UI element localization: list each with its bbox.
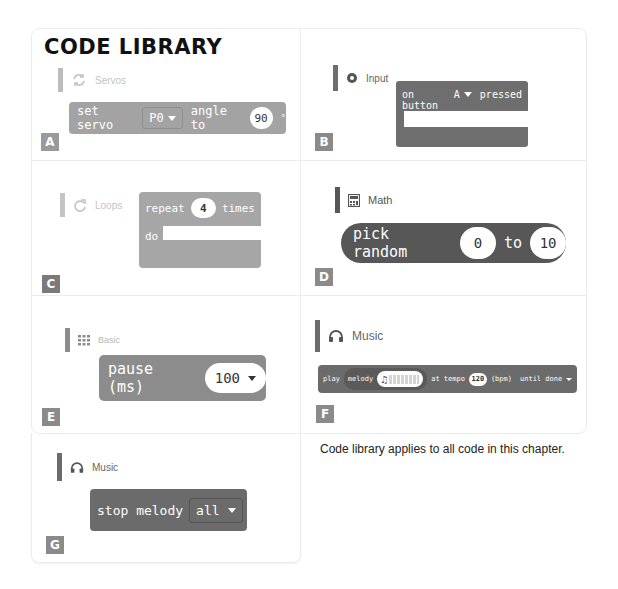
- footnote: Code library applies to all code in this…: [320, 442, 565, 456]
- category-label: Loops: [95, 200, 122, 211]
- panel-label-b: B: [315, 133, 333, 151]
- play-mode-dropdown[interactable]: until done: [520, 375, 572, 383]
- panel-label-a: A: [41, 133, 59, 151]
- repeat-loop-block[interactable]: repeat 4 times do: [139, 192, 261, 268]
- button-dropdown[interactable]: A: [454, 89, 472, 100]
- play-melody-block[interactable]: play melody ♫ at tempo 120 (bpm) until d…: [318, 365, 577, 393]
- melody-reporter[interactable]: melody ♫: [344, 368, 427, 390]
- pause-block[interactable]: pause (ms) 100: [99, 355, 266, 401]
- category-music: Music: [57, 453, 118, 481]
- panel-label-c: C: [42, 275, 60, 293]
- category-math: Math: [335, 187, 392, 213]
- category-color-bar: [65, 328, 70, 352]
- block-text: repeat: [145, 202, 185, 215]
- category-servos: Servos: [58, 68, 126, 92]
- max-value-input[interactable]: 10: [530, 227, 566, 259]
- block-text: on button: [402, 89, 446, 111]
- category-loops: Loops: [60, 193, 122, 217]
- stop-melody-block[interactable]: stop melody all: [90, 489, 247, 531]
- statement-slot[interactable]: [163, 226, 261, 240]
- on-button-pressed-block[interactable]: on button A pressed: [396, 81, 528, 147]
- chevron-down-icon: [248, 376, 256, 381]
- stop-target-dropdown[interactable]: all: [189, 498, 242, 523]
- headphones-icon: [70, 461, 84, 474]
- block-text: melody: [348, 375, 373, 383]
- chevron-down-icon: [464, 92, 472, 97]
- category-label: Basic: [98, 335, 120, 345]
- block-text: at tempo: [431, 375, 465, 383]
- min-value-input[interactable]: 0: [460, 227, 496, 259]
- block-text: (bpm): [491, 375, 512, 383]
- repeat-count-input[interactable]: 4: [191, 198, 216, 218]
- category-color-bar: [60, 193, 65, 217]
- tempo-input[interactable]: 120: [469, 373, 487, 386]
- block-text: set servo: [77, 104, 134, 132]
- melody-editor-field[interactable]: ♫: [377, 371, 423, 387]
- statement-slot[interactable]: [404, 111, 528, 127]
- category-color-bar: [315, 320, 320, 352]
- category-color-bar: [57, 453, 62, 481]
- category-color-bar: [333, 65, 338, 91]
- block-text: times: [222, 202, 255, 215]
- category-input: Input: [333, 65, 388, 91]
- category-basic: Basic: [65, 328, 120, 352]
- block-text: angle to: [191, 104, 242, 132]
- chevron-down-icon: [228, 508, 236, 513]
- pick-random-block[interactable]: pick random 0 to 10: [341, 223, 566, 263]
- block-text: pressed: [480, 89, 522, 100]
- chevron-down-icon: [168, 116, 176, 121]
- category-color-bar: [58, 68, 63, 92]
- panel-label-e: E: [42, 408, 60, 426]
- degree-unit: °: [281, 113, 286, 123]
- grid-icon: [78, 335, 90, 346]
- block-text: stop melody: [97, 503, 183, 518]
- page-title: CODE LIBRARY: [44, 35, 222, 59]
- pause-duration-dropdown[interactable]: 100: [205, 363, 266, 393]
- category-label: Input: [366, 73, 388, 84]
- category-label: Math: [368, 194, 392, 206]
- divider-row-1: [31, 160, 587, 161]
- headphones-icon: [328, 329, 344, 343]
- category-color-bar: [335, 187, 340, 213]
- redo-icon: [73, 198, 87, 212]
- angle-input[interactable]: 90: [250, 107, 273, 129]
- panel-label-d: D: [315, 268, 333, 286]
- panel-label-f: F: [316, 405, 334, 423]
- melody-grid: [389, 375, 419, 384]
- chevron-down-icon: [566, 378, 572, 381]
- set-servo-block[interactable]: set servo P0 angle to 90 °: [69, 102, 286, 134]
- divider-vertical: [300, 28, 301, 434]
- refresh-icon: [71, 73, 87, 87]
- category-label: Servos: [95, 75, 126, 86]
- category-music: Music: [315, 320, 383, 352]
- block-text: play: [323, 375, 340, 383]
- do-text: do: [145, 230, 158, 243]
- divider-row-2: [31, 295, 587, 296]
- panel-label-g: G: [46, 536, 64, 554]
- block-text: to: [504, 234, 522, 252]
- music-note-icon: ♫: [381, 374, 387, 385]
- block-text: pause (ms): [108, 360, 197, 396]
- radio-button-icon: [346, 72, 358, 84]
- calculator-icon: [348, 194, 360, 207]
- block-text: pick random: [353, 225, 452, 261]
- category-label: Music: [352, 329, 383, 343]
- category-label: Music: [92, 462, 118, 473]
- pin-dropdown[interactable]: P0: [142, 107, 182, 129]
